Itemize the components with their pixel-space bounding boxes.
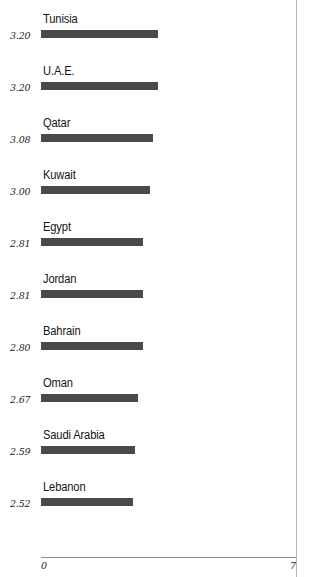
bar-row: Egypt2.81 xyxy=(0,216,296,268)
bar-value-label: 3.08 xyxy=(0,135,36,144)
bar-value-label: 3.20 xyxy=(0,31,36,40)
bar xyxy=(41,446,135,454)
bar-row: Qatar3.08 xyxy=(0,112,296,164)
bar-category-label: Saudi Arabia xyxy=(43,429,105,441)
bar-category-label: Qatar xyxy=(43,117,70,129)
bar-row: Kuwait3.00 xyxy=(0,164,296,216)
bar-value-label: 3.00 xyxy=(0,187,36,196)
bar-category-label: Kuwait xyxy=(43,169,76,181)
figure-right-rule xyxy=(296,0,297,577)
bar-chart: Tunisia3.20U.A.E.3.20Qatar3.08Kuwait3.00… xyxy=(0,0,310,577)
bar-row: Oman2.67 xyxy=(0,372,296,424)
bar-value-label: 3.20 xyxy=(0,83,36,92)
bar xyxy=(41,394,138,402)
bar xyxy=(41,186,150,194)
bar-category-label: Lebanon xyxy=(43,481,85,493)
bar-value-label: 2.80 xyxy=(0,343,36,352)
bar-category-label: Egypt xyxy=(43,221,71,233)
x-axis-line xyxy=(41,557,296,558)
bar-row: Lebanon2.52 xyxy=(0,476,296,528)
bar-category-label: Jordan xyxy=(43,273,76,285)
bar-value-label: 2.81 xyxy=(0,239,36,248)
bar xyxy=(41,290,143,298)
bar xyxy=(41,30,158,38)
x-axis-tick-min: 0 xyxy=(41,560,47,571)
bar xyxy=(41,134,153,142)
bar xyxy=(41,342,143,350)
bar xyxy=(41,498,133,506)
bar-row: Tunisia3.20 xyxy=(0,8,296,60)
bar-category-label: U.A.E. xyxy=(43,65,74,77)
bar-row: Jordan2.81 xyxy=(0,268,296,320)
bar-category-label: Oman xyxy=(43,377,73,389)
bar xyxy=(41,238,143,246)
bar-value-label: 2.67 xyxy=(0,395,36,404)
bar xyxy=(41,82,158,90)
bar-value-label: 2.59 xyxy=(0,447,36,456)
bar-category-label: Tunisia xyxy=(43,13,78,25)
bar-category-label: Bahrain xyxy=(43,325,80,337)
bar-row: Bahrain2.80 xyxy=(0,320,296,372)
plot-area: Tunisia3.20U.A.E.3.20Qatar3.08Kuwait3.00… xyxy=(0,0,296,577)
bar-row: U.A.E.3.20 xyxy=(0,60,296,112)
bar-value-label: 2.52 xyxy=(0,499,36,508)
bar-value-label: 2.81 xyxy=(0,291,36,300)
bar-row: Saudi Arabia2.59 xyxy=(0,424,296,476)
